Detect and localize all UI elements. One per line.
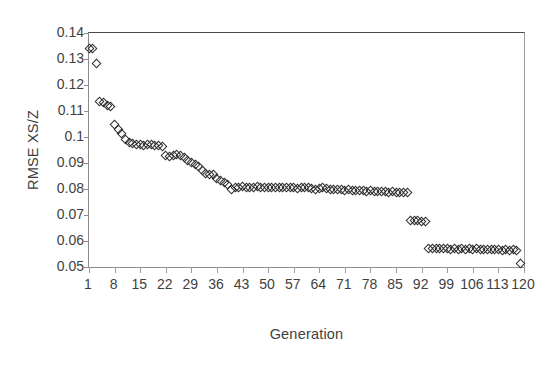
y-tick-mark xyxy=(84,241,89,242)
y-tick-label: 0.11 xyxy=(36,103,84,117)
x-tick-label: 120 xyxy=(503,276,543,292)
y-tick-mark xyxy=(84,59,89,60)
x-tick-mark xyxy=(396,267,397,273)
y-tick-mark xyxy=(84,85,89,86)
x-tick-mark xyxy=(217,267,218,273)
x-tick-mark xyxy=(140,267,141,273)
x-axis-title: Generation xyxy=(88,326,525,342)
y-axis-tick-labels: 0.140.130.120.110.10.090.080.070.060.05 xyxy=(36,32,84,268)
data-point-marker xyxy=(91,59,101,69)
x-tick-mark xyxy=(447,267,448,273)
x-tick-mark xyxy=(115,267,116,273)
y-tick-label: 0.05 xyxy=(36,259,84,273)
x-tick-mark xyxy=(89,267,90,273)
x-tick-mark xyxy=(294,267,295,273)
x-tick-mark xyxy=(243,267,244,273)
y-tick-label: 0.14 xyxy=(36,25,84,39)
rmse-vs-generation-chart: RMSE XS/Z 0.140.130.120.110.10.090.080.0… xyxy=(0,0,557,366)
x-tick-mark xyxy=(166,267,167,273)
x-tick-mark xyxy=(524,267,525,273)
x-tick-mark xyxy=(422,267,423,273)
y-tick-mark xyxy=(84,33,89,34)
x-tick-mark xyxy=(370,267,371,273)
y-tick-mark xyxy=(84,111,89,112)
y-tick-label: 0.09 xyxy=(36,155,84,169)
x-axis-tick-labels: 1815222936435057647178859299106113120 xyxy=(88,276,525,298)
y-tick-mark xyxy=(84,215,89,216)
y-tick-label: 0.07 xyxy=(36,207,84,221)
y-tick-label: 0.13 xyxy=(36,51,84,65)
x-tick-mark xyxy=(345,267,346,273)
y-tick-mark xyxy=(84,189,89,190)
x-tick-mark xyxy=(191,267,192,273)
y-tick-mark xyxy=(84,137,89,138)
x-tick-mark xyxy=(498,267,499,273)
y-tick-label: 0.06 xyxy=(36,233,84,247)
y-tick-label: 0.1 xyxy=(36,129,84,143)
x-tick-mark xyxy=(268,267,269,273)
plot-area xyxy=(88,32,525,268)
x-tick-mark xyxy=(473,267,474,273)
x-tick-mark xyxy=(319,267,320,273)
y-tick-mark xyxy=(84,163,89,164)
y-tick-label: 0.08 xyxy=(36,181,84,195)
y-tick-label: 0.12 xyxy=(36,77,84,91)
